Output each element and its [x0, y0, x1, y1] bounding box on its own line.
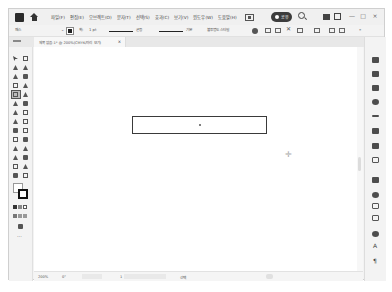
fill-dropdown-chevron[interactable]: ⌄ — [61, 27, 64, 32]
magic-wand-tool-icon[interactable] — [12, 64, 20, 71]
maximize-button[interactable]: □ — [358, 11, 368, 21]
zoom-level[interactable]: 200% — [38, 275, 48, 279]
slice-tool-icon[interactable] — [22, 163, 30, 170]
libraries-panel-icon[interactable] — [372, 85, 379, 91]
stroke-weight-value[interactable]: 1 pt — [89, 27, 97, 32]
shaper-tool-icon[interactable] — [22, 100, 30, 107]
rectangle-tool-icon[interactable] — [12, 91, 20, 98]
search-icon[interactable] — [298, 12, 305, 19]
blend-tool-icon[interactable] — [22, 145, 30, 152]
line-tool-icon[interactable] — [22, 82, 30, 89]
properties-panel-icon[interactable] — [372, 57, 379, 63]
stroke-panel-icon[interactable] — [372, 115, 379, 117]
style-label[interactable]: 불투명도 스타일 — [207, 27, 229, 32]
type-tool-icon[interactable] — [12, 82, 20, 89]
artboard-number[interactable]: 1 — [120, 275, 122, 279]
swatches-panel-icon[interactable] — [372, 143, 379, 149]
free-transform-tool-icon[interactable] — [22, 118, 30, 125]
rotate-tool-icon[interactable] — [12, 109, 20, 116]
menu-edit[interactable]: 편집(E) — [70, 14, 84, 20]
brush-definition[interactable] — [159, 31, 183, 32]
brush-label[interactable]: 균등 — [136, 27, 142, 32]
recolor-icon[interactable] — [252, 28, 258, 34]
artboard-canvas[interactable]: ✛ — [34, 47, 357, 271]
share-button[interactable]: 공유 — [271, 12, 292, 22]
graphic-styles-panel-icon[interactable] — [372, 231, 379, 237]
close-tab-icon[interactable]: × — [118, 39, 121, 44]
column-graph-tool-icon[interactable] — [22, 154, 30, 161]
lasso-tool-icon[interactable] — [22, 64, 30, 71]
paragraph-panel-icon[interactable]: ¶ — [373, 257, 377, 264]
pencil-tool-icon[interactable] — [12, 100, 20, 107]
gradient-mode-icon[interactable] — [18, 205, 22, 209]
vertical-scrollbar[interactable] — [357, 47, 363, 271]
layers-panel-icon[interactable] — [372, 71, 379, 77]
artboard-tool-icon[interactable] — [12, 163, 20, 170]
hand-tool-icon[interactable] — [12, 172, 20, 179]
appearance-panel-icon[interactable] — [372, 192, 379, 198]
gradient-tool-icon[interactable] — [22, 136, 30, 143]
fill-swatch[interactable] — [67, 28, 73, 34]
character-panel-icon[interactable]: A — [373, 242, 377, 249]
document-tab[interactable]: 제목 없음-1* @ 200%(CMYK/미리 보기) × — [34, 37, 126, 47]
scale-tool-icon[interactable] — [22, 109, 30, 116]
color-mode-icon[interactable] — [13, 205, 17, 209]
transform-icon[interactable] — [275, 28, 281, 33]
shape-builder-tool-icon[interactable] — [12, 127, 20, 134]
flip-icon[interactable] — [339, 28, 345, 33]
perspective-grid-tool-icon[interactable] — [22, 127, 30, 134]
variable-width-profile[interactable] — [109, 31, 133, 32]
artboard-nav-field[interactable] — [82, 274, 102, 279]
paintbrush-tool-icon[interactable] — [22, 91, 30, 98]
mesh-tool-icon[interactable] — [12, 136, 20, 143]
grid-icon[interactable] — [329, 28, 335, 33]
eyedropper-tool-icon[interactable] — [12, 145, 20, 152]
menu-view[interactable]: 보기(V) — [174, 14, 188, 20]
curvature-tool-icon[interactable] — [22, 73, 30, 80]
home-icon[interactable] — [30, 13, 38, 21]
symbol-sprayer-tool-icon[interactable] — [12, 154, 20, 161]
image-trace-panel-icon[interactable] — [372, 157, 379, 163]
direct-selection-tool-icon[interactable] — [22, 55, 30, 62]
selection-tool-icon[interactable] — [12, 55, 20, 62]
arrange-icon[interactable] — [297, 28, 303, 33]
edit-toolbar-button[interactable]: ··· — [17, 233, 22, 239]
menu-type[interactable]: 문자(T) — [117, 14, 131, 20]
draw-normal-icon[interactable] — [13, 214, 17, 218]
more-controls[interactable]: » — [359, 27, 361, 32]
arrange-documents-icon[interactable] — [245, 14, 254, 21]
align-panel-icon[interactable] — [372, 177, 379, 183]
workspace-icon[interactable] — [323, 14, 330, 20]
artboards-panel-icon[interactable] — [372, 203, 379, 209]
isolate-icon[interactable]: ✕ — [286, 25, 291, 32]
menu-help[interactable]: 도움말(H) — [218, 14, 237, 20]
vertical-scroll-thumb[interactable] — [358, 157, 361, 171]
collapse-toolbar-icon[interactable] — [13, 40, 21, 42]
width-tool-icon[interactable] — [12, 118, 20, 125]
symbols-panel-icon[interactable] — [372, 128, 379, 134]
menu-window[interactable]: 윈도우(W) — [193, 14, 213, 20]
close-button[interactable]: × — [370, 11, 380, 21]
panel-toggle-icon[interactable] — [334, 13, 341, 20]
none-mode-icon[interactable] — [23, 205, 27, 209]
rectangle-shape[interactable] — [132, 116, 267, 134]
menu-select[interactable]: 선택(S) — [136, 14, 150, 20]
draw-behind-icon[interactable] — [18, 214, 22, 218]
minimize-button[interactable]: — — [347, 11, 357, 21]
artboard-selector[interactable] — [124, 274, 166, 279]
screen-mode-icon[interactable] — [17, 223, 25, 230]
color-panel-icon[interactable] — [372, 99, 379, 105]
transform-panel-icon[interactable] — [372, 215, 379, 221]
profile-label[interactable]: 기본 — [186, 27, 192, 32]
stroke-color-swatch[interactable] — [18, 189, 28, 199]
rotation-angle[interactable]: 0° — [62, 275, 66, 279]
menu-file[interactable]: 파일(F) — [51, 14, 65, 20]
pen-tool-icon[interactable] — [12, 73, 20, 80]
horizontal-scroll-thumb[interactable] — [266, 274, 273, 279]
menu-object[interactable]: 오브젝트(O) — [89, 14, 112, 20]
draw-inside-icon[interactable] — [23, 214, 27, 218]
distribute-icon[interactable] — [314, 28, 320, 33]
align-icon[interactable] — [265, 28, 271, 33]
menu-effect[interactable]: 효과(C) — [155, 14, 169, 20]
zoom-tool-icon[interactable] — [22, 172, 30, 179]
